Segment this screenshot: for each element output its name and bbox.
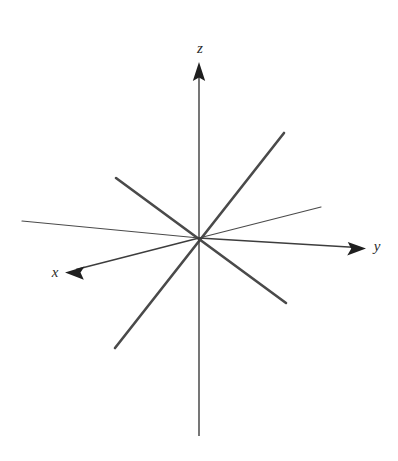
y-axis-label: y — [374, 239, 381, 254]
z-axis-label: z — [197, 41, 203, 56]
x-axis-label: x — [52, 265, 59, 280]
axes-canvas — [0, 0, 398, 461]
thin-line-far-left — [22, 221, 199, 238]
thin-line-upper-right — [199, 207, 321, 238]
x-axis-arrowhead-icon — [65, 266, 85, 279]
y-axis-arrowhead-icon — [347, 242, 366, 256]
coordinate-axes-figure: z y x — [0, 0, 398, 461]
y-axis-line — [199, 238, 357, 248]
